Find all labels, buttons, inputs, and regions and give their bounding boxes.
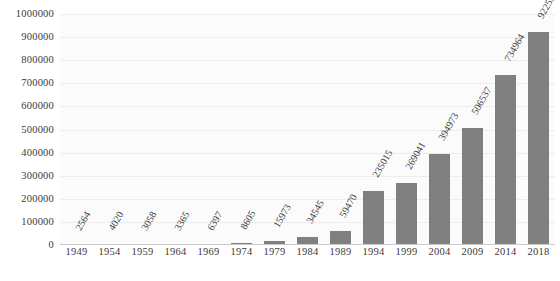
bar-slot: 6397 xyxy=(192,14,225,245)
x-axis-tick-label: 1959 xyxy=(126,247,159,267)
bar-value-label: 4020 xyxy=(106,210,125,232)
x-axis-line xyxy=(60,244,555,245)
y-axis-tick-label: 900000 xyxy=(21,32,54,43)
x-axis-tick-label: 1989 xyxy=(324,247,357,267)
y-axis-tick-label: 600000 xyxy=(21,101,54,112)
bar-slot: 4020 xyxy=(93,14,126,245)
bar[interactable] xyxy=(330,231,351,245)
bar-value-label: 3365 xyxy=(172,210,191,232)
x-axis-tick-label: 1969 xyxy=(192,247,225,267)
bar-slot: 506537 xyxy=(456,14,489,245)
x-axis-tick-label: 1954 xyxy=(93,247,126,267)
bar-slot: 3365 xyxy=(159,14,192,245)
bar-chart: 0100000200000300000400000500000600000700… xyxy=(0,0,560,281)
x-axis: 1949195419591964196919741979198419891994… xyxy=(60,247,555,267)
bar[interactable] xyxy=(462,128,483,245)
x-axis-tick-label: 2009 xyxy=(456,247,489,267)
bar-slot: 59470 xyxy=(324,14,357,245)
x-axis-tick-label: 2018 xyxy=(522,247,555,267)
bar-slot: 8605 xyxy=(225,14,258,245)
plot-area: 2564402030583365639786051597334545594702… xyxy=(60,14,555,245)
x-axis-tick-label: 1994 xyxy=(357,247,390,267)
x-axis-tick-label: 1974 xyxy=(225,247,258,267)
bar[interactable] xyxy=(363,191,384,245)
y-axis-tick-label: 500000 xyxy=(21,124,54,135)
y-axis-tick-label: 400000 xyxy=(21,147,54,158)
bar-slot: 15973 xyxy=(258,14,291,245)
y-axis-tick-label: 700000 xyxy=(21,78,54,89)
x-axis-tick-label: 1964 xyxy=(159,247,192,267)
bar-value-label: 8605 xyxy=(238,209,257,231)
bar[interactable] xyxy=(396,183,417,245)
x-axis-tick-label: 1949 xyxy=(60,247,93,267)
x-axis-tick-label: 1984 xyxy=(291,247,324,267)
bar-slot: 235015 xyxy=(357,14,390,245)
bar[interactable] xyxy=(429,154,450,245)
bar-slot: 34545 xyxy=(291,14,324,245)
x-axis-tick-label: 1999 xyxy=(390,247,423,267)
y-axis-tick-label: 1000000 xyxy=(16,9,54,20)
bar[interactable] xyxy=(528,32,549,245)
bar-value-label: 6397 xyxy=(205,210,224,232)
bar-series: 2564402030583365639786051597334545594702… xyxy=(60,14,555,245)
bar-value-label: 59470 xyxy=(337,193,358,220)
bar-slot: 3058 xyxy=(126,14,159,245)
y-axis-tick-label: 0 xyxy=(49,240,54,251)
bar-slot: 394973 xyxy=(423,14,456,245)
bar-value-label: 2564 xyxy=(73,210,92,232)
y-axis: 0100000200000300000400000500000600000700… xyxy=(0,0,58,281)
x-axis-tick-label: 2014 xyxy=(489,247,522,267)
bar-slot: 922555 xyxy=(522,14,555,245)
bar-slot: 2564 xyxy=(60,14,93,245)
bar-value-label: 922555 xyxy=(535,0,559,20)
bar-value-label: 34545 xyxy=(304,199,325,226)
bar-slot: 269041 xyxy=(390,14,423,245)
x-axis-tick-label: 1979 xyxy=(258,247,291,267)
bar-value-label: 15973 xyxy=(271,203,292,230)
y-axis-tick-label: 100000 xyxy=(21,217,54,228)
y-axis-tick-label: 200000 xyxy=(21,194,54,205)
bar-slot: 734964 xyxy=(489,14,522,245)
y-axis-tick-label: 300000 xyxy=(21,170,54,181)
bar[interactable] xyxy=(495,75,516,245)
bar-value-label: 3058 xyxy=(139,210,158,232)
y-axis-tick-label: 800000 xyxy=(21,55,54,66)
x-axis-tick-label: 2004 xyxy=(423,247,456,267)
